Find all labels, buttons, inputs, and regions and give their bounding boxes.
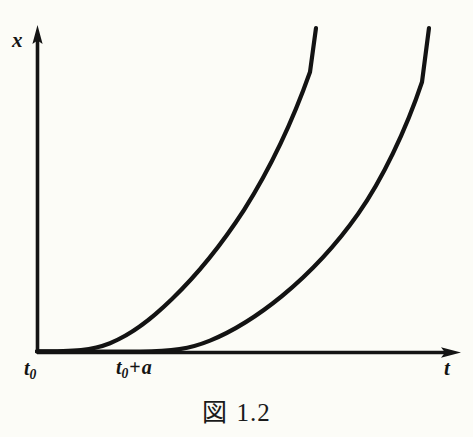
figure-container: x t t0 t0+a 図1.2 [0,0,473,437]
figure-caption-number: 1.2 [236,399,270,426]
x-axis-label: t [444,358,450,379]
tick-label-t0-subscript: 0 [30,367,37,382]
y-axis-group [32,25,42,353]
curve-solution-from-t0-plus-a [37,28,429,352]
y-axis-label: x [12,30,23,51]
tick-label-t0-plus-a: t0+a [116,357,152,380]
figure-caption: 図1.2 [0,392,473,428]
plot-canvas [0,0,473,437]
tick-label-t0a-plus: + [128,356,141,378]
tick-label-t0a-tail: a [142,356,152,378]
figure-caption-symbol: 図 [202,399,228,426]
tick-label-t0: t0 [24,358,36,381]
